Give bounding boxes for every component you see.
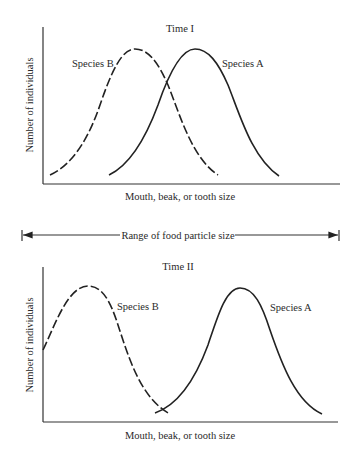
range-label: Range of food particle size [121,230,234,241]
x-axis-label: Mouth, beak, or tooth size [125,191,236,202]
panel-time-1: Time I Number of individuals Mouth, beak… [24,23,340,202]
panel-title: Time II [162,261,194,272]
character-displacement-diagram: Time I Number of individuals Mouth, beak… [0,0,357,453]
species-b-label: Species B [117,301,159,312]
y-axis-label: Number of individuals [24,297,35,392]
panel-time-2: Time II Number of individuals Mouth, bea… [24,261,338,441]
x-axis-label: Mouth, beak, or tooth size [125,430,236,441]
species-a-label: Species A [222,58,264,69]
species-b-label: Species B [72,58,114,69]
range-annotation: Range of food particle size [22,230,339,241]
species-a-label: Species A [270,302,312,313]
panel-title: Time I [166,23,194,34]
y-axis-label: Number of individuals [24,57,35,152]
